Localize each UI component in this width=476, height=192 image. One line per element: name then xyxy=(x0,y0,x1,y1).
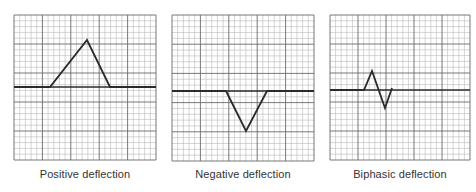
caption-negative-deflection: Negative deflection xyxy=(172,168,314,180)
waveform-trace xyxy=(14,40,156,87)
panel-negative-deflection: Negative deflection xyxy=(172,0,314,192)
ecg-grid-negative xyxy=(172,15,314,161)
panel-biphasic-deflection: Biphasic deflection xyxy=(330,0,470,192)
panel-positive-deflection: Positive deflection xyxy=(14,0,156,192)
ecg-grid-biphasic xyxy=(330,15,470,160)
caption-positive-deflection: Positive deflection xyxy=(14,168,156,180)
caption-biphasic-deflection: Biphasic deflection xyxy=(330,168,470,180)
ecg-grid-positive xyxy=(14,15,156,160)
